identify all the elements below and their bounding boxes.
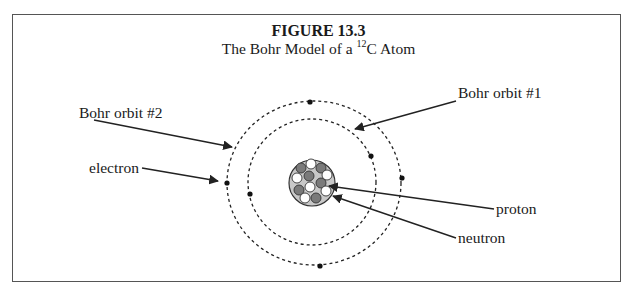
proton-particle xyxy=(321,186,331,196)
electron-dot xyxy=(399,175,404,180)
electron-dot xyxy=(224,180,229,185)
arrow-bohr-orbit-2 xyxy=(94,120,232,147)
label-electron: electron xyxy=(89,159,139,177)
arrow-neutron xyxy=(333,196,456,238)
label-bohr-orbit-2: Bohr orbit #2 xyxy=(79,104,163,122)
arrow-electron xyxy=(142,168,218,181)
neutron-particle xyxy=(304,171,314,181)
label-bohr-orbit-1: Bohr orbit #1 xyxy=(458,84,542,102)
proton-particle xyxy=(305,182,315,192)
electron-dot xyxy=(368,153,373,158)
proton-particle xyxy=(292,173,302,183)
label-neutron: neutron xyxy=(458,229,505,247)
neutron-particle xyxy=(311,193,321,203)
electron-dot xyxy=(307,99,312,104)
electron-dot xyxy=(317,263,322,268)
proton-particle xyxy=(322,170,332,180)
arrow-proton xyxy=(329,186,494,209)
nucleus xyxy=(289,159,335,206)
proton-particle xyxy=(306,159,316,169)
proton-particle xyxy=(300,193,310,203)
arrow-bohr-orbit-1 xyxy=(355,101,456,129)
electron-dot xyxy=(247,191,252,196)
label-proton: proton xyxy=(496,200,536,218)
neutron-particle xyxy=(296,163,306,173)
bohr-model-diagram xyxy=(0,0,637,293)
